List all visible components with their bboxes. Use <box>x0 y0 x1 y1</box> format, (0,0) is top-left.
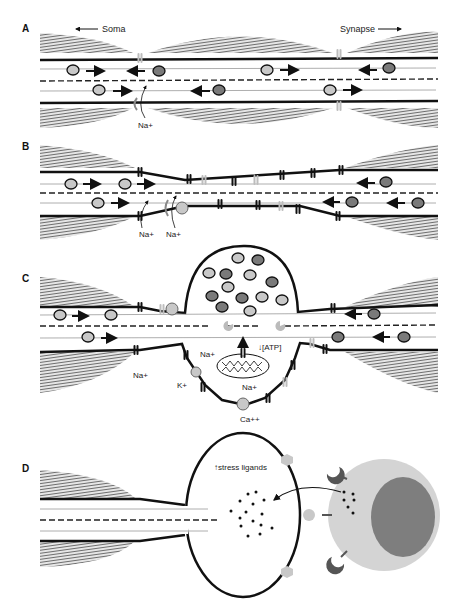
panel-b: B Na+ Na+ <box>22 141 438 240</box>
protease-icon <box>223 321 233 331</box>
myelin-sheath <box>148 37 333 54</box>
stress-ligands-label: ↑stress ligands <box>214 463 267 472</box>
panel-d-label: D <box>22 463 29 474</box>
na-label-left: Na+ <box>139 230 154 239</box>
diagram-canvas: A Soma Synapse Na+ <box>0 0 461 616</box>
na-label-right: Na+ <box>166 230 181 239</box>
myelin-sheath <box>40 108 133 128</box>
panel-a: A Soma Synapse Na+ <box>22 23 438 130</box>
myelin-sheath <box>347 108 438 128</box>
panel-b-label: B <box>22 141 29 152</box>
na-label: Na+ <box>138 121 153 130</box>
panel-c-label: C <box>22 273 29 284</box>
myelin-sheath <box>347 32 438 53</box>
immune-cell-nucleus <box>371 477 435 557</box>
neurofilament <box>40 79 438 81</box>
panel-a-label: A <box>22 23 29 34</box>
myelin-sheath <box>40 33 133 53</box>
receptor-icon <box>323 551 347 577</box>
mitochondrion <box>217 354 269 378</box>
synapse-label: Synapse <box>340 24 375 34</box>
na-label: Na+ <box>133 371 148 380</box>
axon-membrane <box>40 170 438 180</box>
panel-c: C <box>22 246 438 424</box>
atp-label: ↓[ATP] <box>258 343 281 352</box>
protease-icon <box>275 321 285 331</box>
na-pump-label: Na+ <box>200 350 215 359</box>
axon-membrane <box>40 101 438 103</box>
k-label: K+ <box>177 381 187 390</box>
ca-label: Ca++ <box>240 415 260 424</box>
axon-membrane <box>40 58 438 60</box>
pump-icon <box>176 202 188 214</box>
soma-label: Soma <box>102 24 126 34</box>
receptor-icon <box>302 505 332 525</box>
na-exchanger-label: Na+ <box>242 383 257 392</box>
panel-d: D ↑stress ligands <box>22 433 440 597</box>
axon-degeneration-figure: A Soma Synapse Na+ <box>0 0 461 616</box>
myelin-sheath <box>148 108 333 124</box>
